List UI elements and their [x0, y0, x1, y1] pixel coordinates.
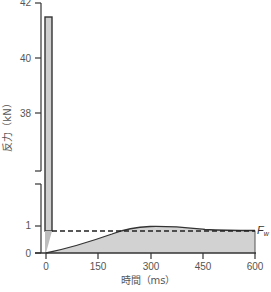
x-tick-label-150: 150	[90, 261, 107, 272]
y-tick-label-38: 38	[20, 108, 32, 119]
bar-base-wedge	[45, 231, 52, 253]
reaction-force-chart: Fw 42 40 38 1 0 反力（kN） 0 150 300 450 600…	[0, 0, 271, 292]
y-tick-label-42: 42	[20, 0, 32, 8]
y-tick-label-0: 0	[25, 248, 31, 259]
y-tick-label-1: 1	[25, 220, 31, 231]
y-tick-label-40: 40	[20, 53, 32, 64]
x-tick-label-300: 300	[143, 261, 160, 272]
fw-label: Fw	[257, 224, 270, 237]
x-tick-label-0: 0	[43, 261, 49, 272]
y-axis-label: 反力（kN）	[1, 98, 13, 151]
impact-bar	[45, 17, 52, 231]
x-tick-label-600: 600	[247, 261, 264, 272]
x-axis-label: 時間（ms）	[121, 275, 176, 286]
x-tick-label-450: 450	[195, 261, 212, 272]
